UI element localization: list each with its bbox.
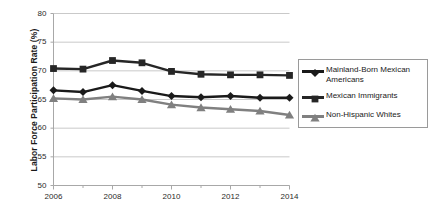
legend-label: Mexican Immigrants	[326, 91, 398, 101]
x-tick-label: 2008	[95, 193, 131, 201]
data-point	[109, 57, 116, 64]
data-point	[257, 71, 264, 78]
data-point	[50, 86, 58, 94]
data-point	[227, 71, 234, 78]
data-point	[197, 93, 205, 101]
data-point	[80, 66, 87, 73]
legend-diamond-marker-icon	[302, 66, 324, 77]
y-tick-label: 70	[25, 67, 47, 75]
legend-item: Mexican Immigrants	[302, 91, 424, 103]
data-point	[109, 81, 117, 89]
data-series-layer	[49, 57, 294, 118]
data-point	[50, 65, 57, 72]
legend-item: Mainland-Born Mexican Americans	[302, 65, 424, 84]
data-point	[286, 72, 293, 79]
legend-triangle-marker-icon	[302, 111, 324, 122]
x-tick-label: 2012	[213, 193, 249, 201]
series-mexican-immigrants	[50, 57, 293, 79]
data-point	[139, 59, 146, 66]
data-point	[227, 92, 235, 100]
x-tick-label: 2014	[272, 193, 308, 201]
data-point	[256, 94, 264, 102]
y-tick-label: 80	[25, 10, 47, 18]
legend-item: Non-Hispanic Whites	[302, 110, 424, 122]
y-tick-label: 55	[25, 153, 47, 161]
y-tick-label: 60	[25, 124, 47, 132]
data-point	[79, 88, 87, 96]
y-tick-label: 75	[25, 38, 47, 46]
y-tick-label: 65	[25, 96, 47, 104]
chart-figure: Labor Force Participation Rate (%) 50556…	[0, 0, 430, 213]
x-tick-label: 2010	[154, 193, 190, 201]
x-tick-label: 2006	[36, 193, 72, 201]
data-point	[168, 68, 175, 75]
data-point	[198, 71, 205, 78]
data-point	[168, 92, 176, 100]
legend-label: Mainland-Born Mexican Americans	[326, 65, 424, 84]
data-point	[138, 87, 146, 95]
legend-square-marker-icon	[302, 92, 324, 103]
legend-label: Non-Hispanic Whites	[326, 110, 401, 120]
y-tick-label: 50	[25, 182, 47, 190]
chart-legend: Mainland-Born Mexican AmericansMexican I…	[298, 59, 428, 128]
data-point	[286, 94, 294, 102]
